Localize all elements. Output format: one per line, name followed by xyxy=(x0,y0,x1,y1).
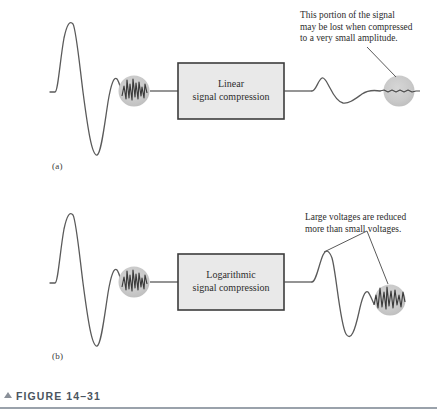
caption-divider xyxy=(0,407,437,409)
figure-caption-row: FIGURE 14–31 xyxy=(4,390,101,402)
panel-a-callout-leader xyxy=(367,47,396,77)
panel-b-callout-leader xyxy=(324,231,388,284)
panel-a-callout-text: This portion of the signal may be lost w… xyxy=(300,10,412,45)
panel-a-box-line1: Linear xyxy=(218,78,245,89)
panel-b-callout-line2: more than small voltages. xyxy=(305,224,406,236)
panel-a-callout-line1: This portion of the signal xyxy=(300,10,412,22)
panel-a-callout-line2: may be lost when compressed xyxy=(300,22,412,34)
figure-caption-text: FIGURE 14–31 xyxy=(16,390,101,402)
panel-b-callout-text: Large voltages are reduced more than sma… xyxy=(305,212,406,235)
panel-a-output-waveform xyxy=(312,78,380,103)
signal-compression-diagram: Linear signal compression Logarithmic xyxy=(0,0,437,410)
panel-b-output-waveform xyxy=(312,251,374,336)
panel-b-box-line1: Logarithmic xyxy=(206,269,256,280)
panel-b-input-waveform xyxy=(50,214,123,346)
caption-triangle-icon xyxy=(4,392,12,398)
panel-a-box-line2: signal compression xyxy=(193,91,270,102)
figure-14-31: Linear signal compression Logarithmic xyxy=(0,0,437,410)
panel-a-input-waveform xyxy=(50,23,123,155)
panel-b-box-line2: signal compression xyxy=(193,282,270,293)
panel-b-callout-line1: Large voltages are reduced xyxy=(305,212,406,224)
panel-a-callout-line3: to a very small amplitude. xyxy=(300,33,412,45)
panel-b-label: (b) xyxy=(52,351,63,361)
panel-a-label: (a) xyxy=(52,161,63,171)
